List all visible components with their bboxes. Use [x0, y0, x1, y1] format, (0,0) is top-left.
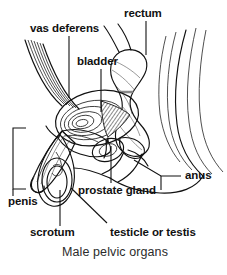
label-vas-deferens: vas deferens	[30, 22, 99, 34]
figure-caption: Male pelvic organs	[62, 245, 168, 259]
label-testicle-or-testis: testicle or testis	[110, 226, 196, 238]
label-prostate-gland: prostate gland	[78, 184, 156, 196]
label-scrotum: scrotum	[30, 226, 75, 238]
label-rectum: rectum	[124, 7, 162, 19]
anatomy-illustration: vas deferens rectum bladder anus prostat…	[0, 0, 227, 275]
label-penis: penis	[8, 195, 38, 207]
male-pelvic-organs-figure: vas deferens rectum bladder anus prostat…	[0, 0, 227, 275]
label-bladder: bladder	[77, 55, 118, 67]
label-anus: anus	[185, 169, 211, 181]
